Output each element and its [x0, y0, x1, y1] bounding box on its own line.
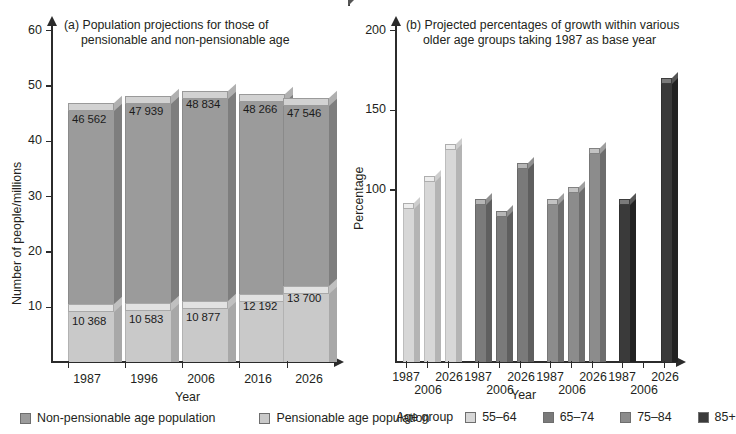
chart-b-xcat-g4-1987: 1987: [601, 370, 643, 384]
bar-b-7584-2026: [589, 148, 600, 361]
bar-top: [661, 78, 672, 84]
bar-side: [528, 163, 534, 362]
chart-a-ytick-50: [46, 85, 53, 86]
chart-a-xcat-1996: 1996: [119, 372, 169, 386]
bar-top: [424, 176, 435, 182]
bar-a-label-pensionable-1996: 10 583: [129, 313, 163, 325]
bar-a-label-pensionable-2016: 12 192: [243, 300, 277, 312]
chart-b-xlabel: Year: [511, 388, 536, 402]
chart-a-xtick-2016: [239, 361, 240, 368]
chart-b-xcat-g1-1987: 1987: [385, 370, 427, 384]
bar-face: [403, 203, 414, 362]
legend-item-7584[interactable]: 75–84: [620, 410, 671, 424]
chart-b-xtick-g1-1987: [406, 361, 407, 368]
bar-a-label-nonpensionable-1996: 47 939: [129, 105, 163, 117]
chart-b-xcat-g1-2006: 2006: [407, 383, 449, 397]
legend-item-6574[interactable]: 65–74: [543, 410, 594, 424]
legend-swatch-icon-7584: [620, 412, 631, 423]
bar-top: [517, 163, 528, 169]
chart-b: (b) Projected percentages of growth with…: [348, 0, 685, 434]
bar-top: [68, 103, 114, 111]
legend-item-85plus[interactable]: 85+: [698, 410, 736, 424]
chart-b-ytick-label-200: 200: [354, 24, 386, 36]
chart-a-xtick-1996: [125, 361, 126, 368]
bar-side: [600, 148, 606, 361]
chart-a-ytick-label-60: 60: [14, 24, 42, 36]
bar-side: [329, 286, 337, 362]
bar-top: [445, 144, 456, 150]
bar-top: [589, 148, 600, 154]
bar-top: [283, 98, 329, 106]
bar-top: [182, 301, 228, 309]
bar-top: [239, 94, 285, 102]
bar-a-label-nonpensionable-2006: 48 834: [186, 98, 220, 110]
legend-label-7584: 75–84: [637, 410, 671, 424]
bar-a-1996-pensionable: [125, 303, 171, 362]
bar-a-label-nonpensionable-1987: 46 562: [72, 113, 106, 125]
bar-top: [568, 187, 579, 193]
chart-b-yaxis: [395, 25, 397, 362]
chart-b-legend: Age group 55–64 65–74 75–84 85+: [396, 410, 736, 424]
bar-b-85plus-1987: [619, 199, 630, 361]
bar-side: [114, 304, 122, 362]
bar-top: [68, 304, 114, 312]
chart-a-xcat-2016: 2016: [233, 372, 283, 386]
legend-swatch-icon-85plus: [698, 412, 709, 423]
bar-top: [496, 211, 507, 217]
chart-b-xcat-g4-2026: 2026: [644, 370, 686, 384]
chart-a-ytick-label-50: 50: [14, 79, 42, 91]
bar-top: [547, 199, 558, 205]
bar-b-85plus-2026: [661, 78, 672, 362]
legend-swatch-icon-6574: [543, 412, 554, 423]
bar-b-7584-2006: [568, 187, 579, 362]
bar-face: [475, 199, 486, 361]
chart-a-xtick-2026: [287, 361, 288, 368]
bar-face: [68, 304, 114, 362]
bar-side: [171, 303, 179, 362]
bar-face: [619, 199, 630, 361]
chart-b-ytick-label-150: 150: [354, 103, 386, 115]
bar-b-5564-1987: [403, 203, 414, 362]
bar-b-7584-1987: [547, 199, 558, 361]
legend-label-5564: 55–64: [482, 410, 516, 424]
chart-a-ytick-10: [46, 307, 53, 308]
legend-swatch-icon-5564: [465, 412, 476, 423]
chart-b-xtick-g2-2026: [520, 361, 521, 368]
legend-swatch-icon-nonpensionable: [20, 413, 31, 424]
chart-a-ytick-30: [46, 196, 53, 197]
bar-side: [579, 187, 585, 362]
legend-item-nonpensionable[interactable]: Non-pensionable age population: [20, 411, 215, 425]
chart-a-title-line2: pensionable and non-pensionable age: [64, 33, 329, 48]
chart-b-xcat-g3-1987: 1987: [529, 370, 571, 384]
bar-a-label-nonpensionable-2026: 47 546: [287, 107, 321, 119]
chart-a-xlabel: Year: [175, 390, 200, 404]
chart-b-xtick-g3-1987: [550, 361, 551, 368]
bar-face: [125, 303, 171, 362]
chart-b-ytick-100: [390, 189, 397, 190]
legend-label-85plus: 85+: [715, 410, 736, 424]
bar-b-6574-2006: [496, 211, 507, 362]
bar-face: [445, 144, 456, 362]
chart-b-xtick-g4-2026: [664, 361, 665, 368]
bar-a-label-pensionable-2006: 10 877: [186, 311, 220, 323]
bar-b-5564-2026: [445, 144, 456, 362]
legend-item-5564[interactable]: 55–64: [465, 410, 516, 424]
chart-a-ytick-label-40: 40: [14, 134, 42, 146]
bar-b-6574-2026: [517, 163, 528, 362]
chart-b-xtick-g4-2006: [643, 361, 644, 368]
bar-side: [507, 211, 513, 362]
chart-b-title-line1: (b) Projected percentages of growth with…: [406, 18, 681, 33]
chart-a-yaxis: [51, 25, 53, 362]
chart-b-ytick-200: [390, 30, 397, 31]
bar-side: [456, 144, 462, 362]
chart-b-legend-caption: Age group: [396, 410, 453, 424]
chart-b-xtick-g3-2026: [592, 361, 593, 368]
chart-a-ytick-40: [46, 141, 53, 142]
chart-a-ytick-60: [46, 30, 53, 31]
chart-a-title: (a) Population projections for those of …: [64, 18, 329, 47]
bar-side: [486, 199, 492, 361]
bar-face: [517, 163, 528, 362]
legend-swatch-icon-pensionable: [259, 413, 270, 424]
chart-b-title-line2: older age groups taking 1987 as base yea…: [406, 33, 681, 48]
bar-b-5564-2006: [424, 176, 435, 362]
